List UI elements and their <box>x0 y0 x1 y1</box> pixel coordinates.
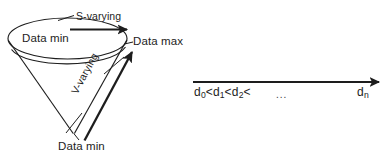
label-d-sequence-ellipsis: ... <box>276 90 287 100</box>
cone-inner-lip-curve <box>12 47 126 64</box>
v-varying-leader-line-lower <box>66 113 82 133</box>
d-sequence-term-2-base: <d <box>225 85 239 99</box>
d-sequence-term-1-base: <d <box>206 85 220 99</box>
label-data-max: Data max <box>133 36 183 48</box>
d-n-base: d <box>357 85 364 99</box>
label-d-sequence: d0<d1<d2< <box>194 86 251 100</box>
figure-canvas: Data min Data max Data min S-varying V-v… <box>0 0 389 162</box>
d-sequence-term-0-base: d <box>194 85 201 99</box>
d-sequence-trailing-operator: < <box>243 85 250 99</box>
label-s-varying: S-varying <box>76 11 121 22</box>
figure-vector-layer <box>0 0 389 162</box>
label-data-min-top: Data min <box>22 33 69 45</box>
label-data-min-bottom: Data min <box>58 141 105 153</box>
d-n-sub: n <box>364 90 369 100</box>
label-d-n: dn <box>357 86 369 100</box>
